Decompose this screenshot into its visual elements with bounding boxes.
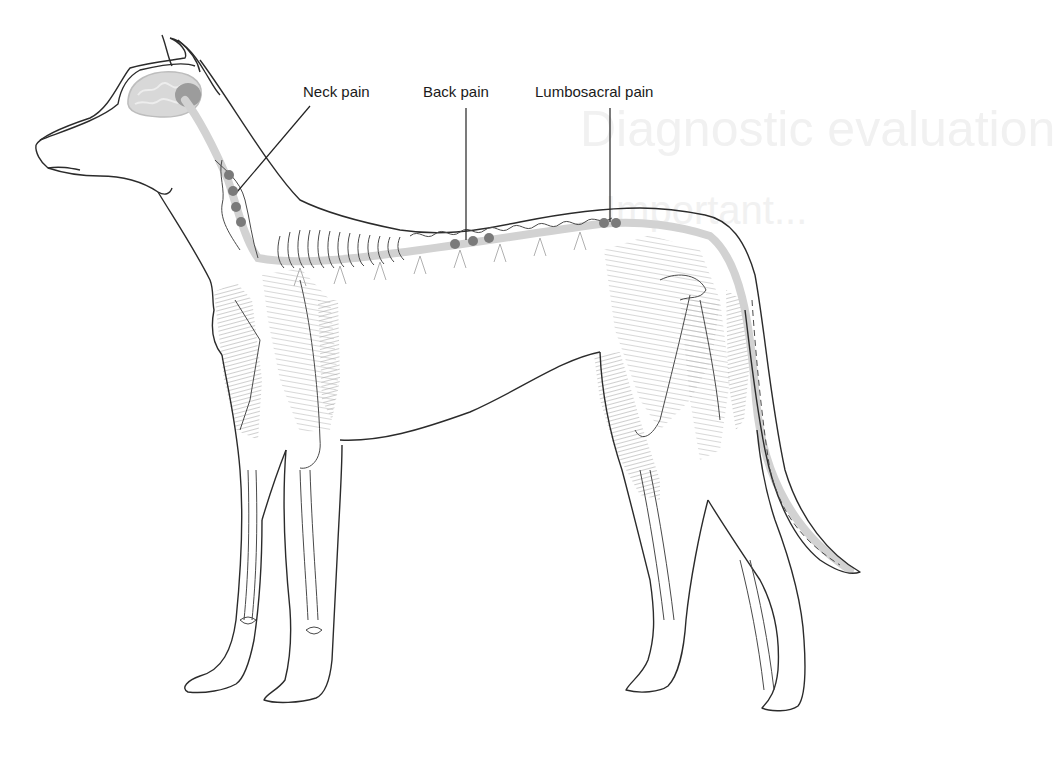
neck-pain-label: Neck pain [303, 83, 370, 100]
hindlimb-muscles [594, 235, 750, 500]
lumbosacral-pain-label: Lumbosacral pain [535, 83, 653, 100]
back-pain-label: Back pain [423, 83, 489, 100]
neck-leader-line [237, 106, 310, 192]
leader-lines [237, 106, 610, 240]
